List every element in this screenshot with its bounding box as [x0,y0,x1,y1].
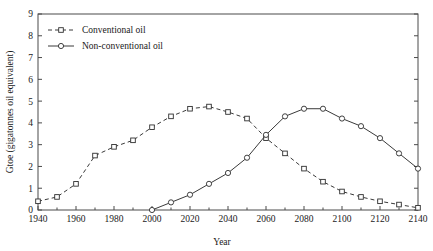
chart-svg: 1940196019802000202020402060208021002120… [0,0,433,251]
data-point-conventional-2100 [340,189,345,194]
x-tick-label-1940: 1940 [29,214,48,224]
data-point-nonconventional-2060 [263,132,268,137]
data-point-conventional-2120 [378,199,383,204]
data-point-nonconventional-2030 [206,181,211,186]
data-point-conventional-1990 [131,138,136,143]
data-point-conventional-2050 [245,116,250,121]
data-point-nonconventional-2140 [415,166,420,171]
x-tick-label-2020: 2020 [181,214,200,224]
x-axis-tick-labels: 1940196019802000202020402060208021002120… [29,214,428,224]
data-point-nonconventional-2040 [225,170,230,175]
data-point-conventional-2110 [359,195,364,200]
data-point-nonconventional-2010 [168,200,173,205]
data-point-nonconventional-2110 [358,124,363,129]
data-point-conventional-2080 [302,166,307,171]
chart-legend: Conventional oilNon-conventional oil [48,25,163,51]
data-point-conventional-1970 [93,153,98,158]
data-point-nonconventional-2080 [301,106,306,111]
data-point-conventional-2070 [283,151,288,156]
data-point-conventional-1940 [36,199,41,204]
data-point-conventional-1960 [74,182,79,187]
data-point-nonconventional-2070 [282,114,287,119]
legend-marker-square [59,28,64,33]
x-tick-label-2040: 2040 [219,214,238,224]
x-tick-label-2080: 2080 [295,214,314,224]
data-point-conventional-2000 [150,125,155,130]
x-tick-label-2060: 2060 [257,214,276,224]
x-tick-label-2000: 2000 [143,214,162,224]
data-point-nonconventional-2130 [396,151,401,156]
data-point-conventional-2020 [188,106,193,111]
data-point-conventional-2010 [169,114,174,119]
data-point-conventional-2030 [207,104,212,109]
data-point-conventional-2140 [416,206,421,211]
x-tick-label-1960: 1960 [67,214,86,224]
y-tick-label-7: 7 [28,53,33,63]
legend-label-1: Non-conventional oil [82,41,163,51]
data-point-nonconventional-2000 [149,207,154,212]
x-tick-label-2140: 2140 [409,214,428,224]
data-point-conventional-2090 [321,179,326,184]
data-point-conventional-2040 [226,110,231,115]
chart-figure: 1940196019802000202020402060208021002120… [0,0,433,251]
y-tick-label-2: 2 [28,162,33,172]
legend-label-0: Conventional oil [82,25,146,35]
y-tick-label-8: 8 [28,31,33,41]
x-tick-label-2120: 2120 [371,214,390,224]
y-tick-label-9: 9 [28,9,33,19]
legend-marker-circle [58,43,63,48]
data-point-nonconventional-2090 [320,106,325,111]
y-tick-label-1: 1 [28,184,33,194]
y-tick-label-5: 5 [28,97,33,107]
legend-item-nonconventional-oil: Non-conventional oil [48,41,163,51]
y-tick-label-6: 6 [28,75,33,85]
y-tick-label-4: 4 [28,118,33,128]
x-axis-ticks [38,206,418,210]
data-point-conventional-1980 [112,145,117,150]
y-tick-label-3: 3 [28,140,33,150]
data-point-nonconventional-2120 [377,136,382,141]
x-tick-label-1980: 1980 [105,214,124,224]
legend-item-conventional-oil: Conventional oil [48,25,146,35]
y-axis-title: Gtoe (gigatonnes oil equivalent) [5,51,16,174]
y-axis-tick-labels: 0123456789 [28,9,33,215]
data-point-nonconventional-2050 [244,155,249,160]
x-tick-label-2100: 2100 [333,214,352,224]
y-tick-label-0: 0 [28,205,33,215]
data-point-conventional-1950 [55,195,60,200]
x-axis-title: Year [213,237,231,247]
data-series-layer [36,104,421,212]
data-point-conventional-2130 [397,202,402,207]
data-point-nonconventional-2020 [187,192,192,197]
data-point-nonconventional-2100 [339,116,344,121]
